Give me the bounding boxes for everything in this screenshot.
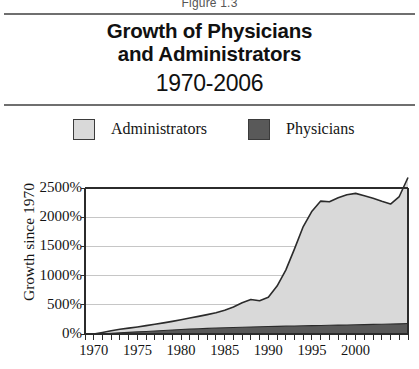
page-title: Growth of Physicians and Administrators xyxy=(0,19,419,65)
figure-caption: Figure 1.3 xyxy=(0,0,419,10)
legend-label-physicians: Physicians xyxy=(286,120,354,138)
chart-legend: Administrators Physicians xyxy=(0,116,419,146)
x-tick-label: 1980 xyxy=(156,343,206,358)
legend-swatch-physicians xyxy=(248,119,270,140)
x-tick-label: 1995 xyxy=(287,343,337,358)
title-line-2: and Administrators xyxy=(0,42,419,65)
x-tick-label: 1990 xyxy=(243,343,293,358)
page-subtitle: 1970-2006 xyxy=(0,70,419,96)
legend-item-administrators: Administrators xyxy=(73,116,207,142)
x-tick-label: 1975 xyxy=(112,343,162,358)
legend-item-physicians: Physicians xyxy=(248,116,354,142)
x-tick-label: 1985 xyxy=(200,343,250,358)
divider-top xyxy=(4,13,415,15)
divider-bottom xyxy=(4,104,415,106)
x-tick-label: 1970 xyxy=(69,343,119,358)
chart-plot-region: Growth since 1970 0%500%1000%1500%2000%2… xyxy=(0,155,419,369)
legend-label-administrators: Administrators xyxy=(111,120,207,138)
x-tick-label: 2000 xyxy=(331,343,381,358)
legend-swatch-administrators xyxy=(73,119,95,140)
x-axis-tick-labels: 1970197519801985199019952000 xyxy=(0,155,419,369)
title-line-1: Growth of Physicians xyxy=(0,19,419,42)
